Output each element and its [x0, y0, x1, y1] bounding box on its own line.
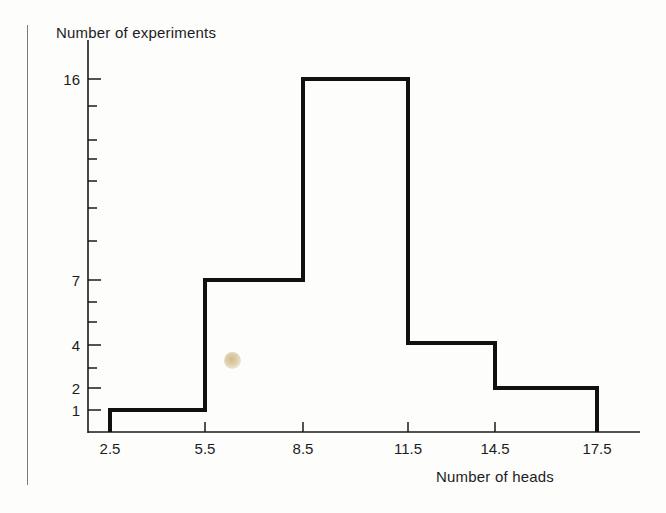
histogram-figure: Number of experiments Number of heads 16… [0, 0, 666, 513]
y-axis-ticks [88, 79, 101, 410]
x-axis-tick-label: 17.5 [582, 440, 611, 457]
histogram-step-outline [110, 79, 597, 432]
y-axis-tick-label: 4 [50, 337, 80, 354]
x-axis-tick-label: 2.5 [100, 440, 121, 457]
x-axis-tick-label: 11.5 [394, 440, 422, 457]
y-axis-group [88, 40, 101, 433]
x-axis-tick-label: 8.5 [293, 440, 314, 457]
y-axis-tick-label: 1 [50, 402, 80, 419]
x-axis-group [88, 422, 640, 432]
x-axis-ticks [110, 422, 597, 432]
y-axis-tick-label: 2 [50, 380, 80, 397]
x-axis-tick-label: 14.5 [480, 440, 509, 457]
plot-area [0, 0, 666, 513]
y-axis-tick-label: 16 [50, 71, 80, 88]
x-axis-tick-label: 5.5 [195, 440, 216, 457]
y-axis-tick-label: 7 [50, 272, 80, 289]
